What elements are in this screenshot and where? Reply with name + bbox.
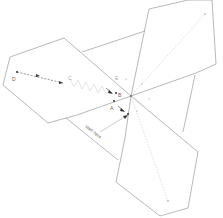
path-d-to-c xyxy=(17,72,63,83)
label-d: D xyxy=(12,76,16,82)
far-point-bottom-right xyxy=(167,200,169,202)
point-small-3 xyxy=(136,110,137,111)
panel-edge-top xyxy=(82,31,145,52)
point-b xyxy=(115,92,117,94)
arrow-d-c-1 xyxy=(36,74,40,77)
guide-down-right xyxy=(131,96,148,108)
arrow-start xyxy=(123,115,128,119)
start-here-leader xyxy=(100,116,126,132)
arrow-d-c-2 xyxy=(59,81,63,84)
zigzag-c-to-b xyxy=(70,79,110,94)
panel-edge-bottom xyxy=(66,118,118,160)
point-d xyxy=(16,71,18,73)
label-a: A xyxy=(110,105,114,111)
point-small-2 xyxy=(148,98,149,99)
panel-edge-right xyxy=(183,75,195,132)
label-e: E xyxy=(115,75,119,81)
far-point-top-right xyxy=(204,13,206,15)
label-c: C xyxy=(68,75,72,81)
point-a xyxy=(113,100,115,102)
center-point xyxy=(130,95,132,97)
point-small-1 xyxy=(141,83,142,84)
label-b: B xyxy=(118,92,122,98)
point-small-4 xyxy=(125,78,126,79)
hexagon-diagram: D C B A E start here xyxy=(0,0,223,218)
point-start xyxy=(127,113,129,115)
